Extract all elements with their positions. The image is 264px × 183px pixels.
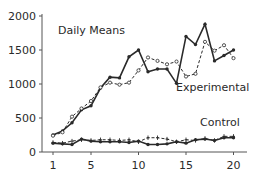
data-point	[156, 67, 159, 70]
y-tick-label: 1000	[8, 78, 36, 91]
data-point	[99, 86, 102, 89]
data-point	[222, 54, 225, 57]
data-point	[232, 48, 235, 51]
data-point	[89, 104, 92, 107]
data-point	[146, 143, 149, 146]
data-point	[146, 56, 149, 59]
x-tick-label: 5	[88, 159, 95, 172]
data-point	[70, 143, 73, 146]
data-point	[108, 81, 111, 84]
y-tick-label: 500	[15, 112, 36, 125]
data-point	[156, 59, 159, 62]
experimental-label: Experimental	[176, 81, 249, 94]
data-point	[194, 43, 197, 46]
data-point	[184, 35, 187, 38]
data-point	[175, 60, 178, 63]
chart-title: Daily Means	[58, 24, 125, 37]
data-point	[70, 115, 73, 118]
data-point	[127, 55, 130, 58]
data-point	[165, 67, 168, 70]
data-point	[213, 49, 216, 52]
data-point	[203, 40, 206, 43]
y-tick-label: 1500	[8, 44, 36, 57]
x-tick-label: 15	[179, 159, 193, 172]
data-point	[118, 83, 121, 86]
data-point	[51, 134, 54, 137]
data-point	[156, 143, 159, 146]
x-tick-label: 1	[50, 159, 57, 172]
data-point	[222, 44, 225, 47]
data-point	[203, 22, 206, 25]
y-tick-label: 2000	[8, 10, 36, 23]
data-point	[232, 57, 235, 60]
data-point	[213, 59, 216, 62]
data-point	[137, 48, 140, 51]
data-point	[108, 76, 111, 79]
data-point	[184, 75, 187, 78]
data-point	[184, 141, 187, 144]
data-point	[118, 76, 121, 79]
control-label: Control	[200, 116, 240, 129]
data-point	[127, 81, 130, 84]
data-point	[70, 121, 73, 124]
data-point	[194, 72, 197, 75]
data-point	[165, 142, 168, 145]
data-point	[80, 107, 83, 110]
data-point	[61, 131, 64, 134]
x-tick-label: 10	[132, 159, 146, 172]
y-tick-label: 0	[29, 146, 36, 159]
data-point	[146, 70, 149, 73]
data-point	[137, 69, 140, 72]
line-chart: 050010001500200015101520 Daily Means Exp…	[0, 0, 264, 183]
data-point	[165, 63, 168, 66]
data-point	[89, 99, 92, 102]
x-tick-label: 20	[227, 159, 241, 172]
